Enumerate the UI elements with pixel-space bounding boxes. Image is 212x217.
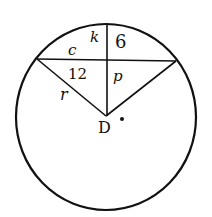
label-twelve: 12 (68, 65, 87, 83)
label-p: p (113, 67, 123, 85)
center-dot (120, 117, 124, 121)
label-r: r (60, 85, 69, 104)
label-six: 6 (115, 31, 126, 52)
label-k: k (90, 28, 99, 46)
label-c: c (68, 41, 77, 59)
label-center-d: D (98, 118, 111, 137)
circle (16, 24, 196, 210)
geometry-diagram: k 6 c 12 p r D (0, 0, 212, 217)
